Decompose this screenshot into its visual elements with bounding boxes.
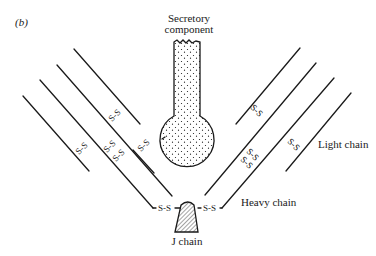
j-chain-label: J chain (172, 235, 203, 247)
right-disulfide-bonds: S-S S-S S-S S-S (239, 102, 302, 170)
light-chain-label: Light chain (318, 138, 369, 150)
left-light-chain-inner (74, 49, 140, 124)
right-chains (205, 48, 351, 208)
secretory-component (160, 40, 214, 167)
right-light-chain-outer (286, 93, 351, 171)
left-heavy-chain-bottom (133, 150, 154, 173)
left-chains (23, 49, 172, 208)
left-heavy-chain-inner (57, 65, 172, 196)
heavy-chain-label: Heavy chain (241, 196, 297, 208)
panel-label: (b) (15, 16, 28, 29)
secretory-iga-diagram: (b) Secretory component S-S S-S S-S S-S … (0, 0, 376, 256)
right-heavy-chain-inner (205, 63, 316, 195)
ss-bond-right-j: S-S (203, 203, 216, 213)
ss-bond: S-S (73, 140, 89, 156)
right-light-chain-inner (236, 48, 300, 124)
ss-bond: S-S (249, 102, 265, 118)
left-light-chain-outer (23, 96, 89, 171)
j-chain (175, 202, 198, 232)
ss-bond: S-S (286, 136, 302, 152)
ss-bond-left-j: S-S (158, 203, 171, 213)
left-heavy-chain-outer (40, 80, 153, 208)
ss-bond: S-S (106, 107, 122, 123)
secretory-component-label-line2: component (165, 23, 214, 35)
ss-bond: S-S (135, 137, 151, 153)
